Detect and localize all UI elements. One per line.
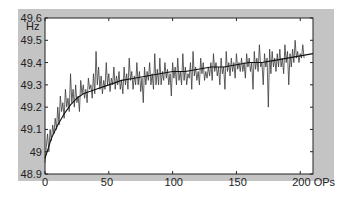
y-tick-label: 48.9 [21, 168, 42, 180]
x-tick-label: 100 [165, 176, 183, 188]
y-unit-label: Hz [26, 20, 39, 32]
frequency-chart: 050100150200 OPs48.94949.149.249.349.449… [0, 0, 347, 199]
x-tick-label: 50 [101, 176, 113, 188]
x-tick-label: 150 [228, 176, 246, 188]
x-tick-label: 200 OPs [292, 176, 335, 188]
y-tick-label: 49.3 [21, 79, 42, 91]
y-tick-label: 49.1 [21, 123, 42, 135]
y-tick-label: 49.5 [21, 34, 42, 46]
y-tick-label: 49.2 [21, 101, 42, 113]
x-tick-label: 0 [42, 176, 48, 188]
y-tick-label: 49.4 [21, 57, 42, 69]
y-tick-label: 49 [30, 146, 42, 158]
